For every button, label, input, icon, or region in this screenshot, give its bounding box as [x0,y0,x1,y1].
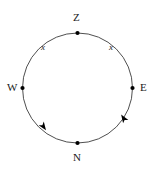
point-label-east: E [140,82,147,93]
point-label-west: W [7,82,17,93]
point-marker-west [20,86,24,90]
point-marker-north [75,141,79,145]
circle-diagram-figure: ZENWxx [0,0,162,172]
arrow-lower-right [118,113,128,123]
arc-label-left: x [41,43,45,52]
diagram-canvas [0,0,162,172]
arrowhead-group [39,113,129,132]
circle-outline [23,33,133,143]
point-marker-east [130,86,134,90]
point-label-zenith: Z [73,12,80,23]
arrow-lower-left [39,122,49,132]
arc-label-right: x [109,43,113,52]
point-label-north: N [73,152,81,163]
point-marker-zenith [75,31,79,35]
point-marker-group [20,31,134,145]
